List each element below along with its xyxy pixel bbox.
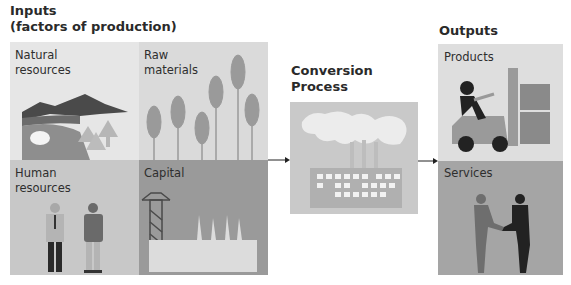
forklift-icon <box>438 44 563 161</box>
factory-icon <box>139 160 268 275</box>
conversion-title: Conversion Process <box>291 63 373 95</box>
outputs-title: Outputs <box>439 23 498 39</box>
cell-products: Products <box>438 44 563 161</box>
inputs-title-line1: Inputs <box>10 3 177 19</box>
handshake-icon <box>438 161 563 275</box>
cell-services: Services <box>438 161 563 275</box>
arrow-conversion-to-outputs <box>418 156 440 166</box>
arrow-inputs-to-conversion <box>268 155 292 165</box>
people-icon <box>10 160 139 275</box>
smoking-factory-icon <box>290 102 418 214</box>
cell-capital: Capital <box>139 160 268 275</box>
landscape-icon <box>10 42 139 160</box>
cell-human-resources: Human resources <box>10 160 139 275</box>
cell-raw-materials: Raw materials <box>139 42 268 160</box>
inputs-title: Inputs (factors of production) <box>10 3 177 35</box>
wheat-icon <box>139 42 268 160</box>
cell-natural-resources: Natural resources <box>10 42 139 160</box>
conversion-title-line1: Conversion <box>291 63 373 79</box>
conversion-title-line2: Process <box>291 79 373 95</box>
inputs-title-line2: (factors of production) <box>10 19 177 35</box>
conversion-process-box <box>290 102 418 214</box>
